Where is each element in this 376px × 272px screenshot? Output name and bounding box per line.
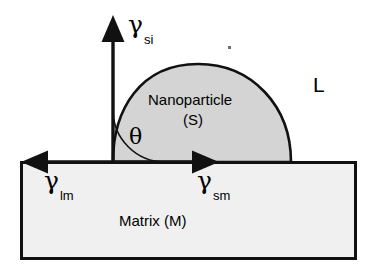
gamma-si-symbol: γ [128, 10, 143, 39]
gamma-sm-symbol: γ [197, 166, 212, 195]
gamma-si-subscript: si [144, 32, 153, 47]
nanoparticle-label: Nanoparticle [148, 92, 232, 107]
gamma-lm-label: γlm [44, 168, 73, 197]
gamma-sm-subscript: sm [213, 188, 230, 203]
gamma-lm-subscript: lm [60, 188, 74, 203]
theta-angle-label: θ [129, 126, 142, 148]
scan-speck-artifact [228, 46, 231, 49]
gamma-sm-label: γsm [197, 168, 229, 197]
liquid-phase-label: L [313, 74, 325, 95]
diagram-figure [0, 0, 376, 272]
gamma-si-arrowhead [102, 15, 125, 42]
gamma-lm-symbol: γ [44, 166, 59, 195]
gamma-si-label: γsi [128, 12, 152, 41]
diagram-canvas: γsi γlm γsm θ L Nanoparticle (S) Matrix … [0, 0, 376, 272]
nanoparticle-phase-label: (S) [183, 112, 203, 127]
matrix-label: Matrix (M) [119, 213, 187, 228]
